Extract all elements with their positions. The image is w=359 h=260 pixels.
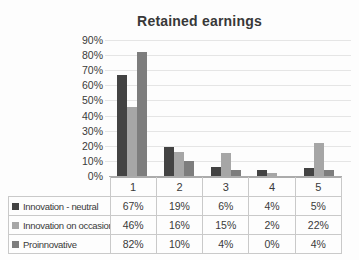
table-row: Innovation on occasion46%16%15%2%22% [9,216,342,235]
plot-area [109,40,342,176]
category-label: 2 [156,178,202,197]
value-cell: 22% [295,216,341,235]
category-label: 3 [203,178,249,197]
value-cell: 10% [156,235,202,254]
series-label-cell: Proinnovative [9,235,111,254]
value-cell: 19% [156,197,202,216]
category-label: 4 [249,178,295,197]
y-tick-label: 30% [0,125,103,137]
bar-innovation-on-occasion-cat3 [221,153,231,176]
category-axis-row: 12345 [9,178,342,197]
legend-marker-icon [12,203,19,210]
y-tick-label: 70% [0,64,103,76]
value-cell: 82% [110,235,156,254]
bar-proinnovative-cat2 [184,161,194,176]
category-label: 5 [295,178,341,197]
table-row: Innovation - neutral67%19%6%4%5% [9,197,342,216]
bar-innovation-on-occasion-cat1 [127,107,137,177]
value-cell: 15% [203,216,249,235]
y-tick-label: 20% [0,140,103,152]
bar-innovation-on-occasion-cat5 [314,143,324,176]
category-label: 1 [110,178,156,197]
bar-innovation-neutral-cat5 [304,168,314,176]
y-tick-label: 60% [0,79,103,91]
y-tick-label: 80% [0,49,103,61]
value-cell: 0% [249,235,295,254]
chart: Retained earnings 90%80%70%60%50%40%30%2… [0,0,359,260]
legend-marker-icon [12,241,19,248]
chart-title: Retained earnings [50,13,349,29]
bar-proinnovative-cat1 [137,52,147,176]
series-label-cell: Innovation on occasion [9,216,111,235]
data-table-legend: 12345 Innovation - neutral67%19%6%4%5%In… [8,177,342,254]
value-cell: 4% [203,235,249,254]
y-tick-label: 50% [0,94,103,106]
series-rows: Innovation - neutral67%19%6%4%5%Innovati… [9,197,342,254]
legend-marker-icon [12,222,19,229]
y-tick-label: 90% [0,34,103,46]
value-cell: 4% [249,197,295,216]
value-cell: 67% [110,197,156,216]
value-cell: 4% [295,235,341,254]
y-axis-tick-labels: 90%80%70%60%50%40%30%20%10%0% [0,40,103,176]
table-corner-cell [9,178,111,197]
bar-innovation-neutral-cat1 [117,75,127,176]
bar-innovation-on-occasion-cat2 [174,152,184,176]
y-tick-label: 40% [0,110,103,122]
bar-innovation-neutral-cat2 [164,147,174,176]
value-cell: 6% [203,197,249,216]
table-row: Proinnovative82%10%4%0%4% [9,235,342,254]
value-cell: 5% [295,197,341,216]
y-tick-label: 10% [0,155,103,167]
bar-innovation-neutral-cat3 [211,167,221,176]
value-cell: 16% [156,216,202,235]
value-cell: 46% [110,216,156,235]
series-label-cell: Innovation - neutral [9,197,111,216]
value-cell: 2% [249,216,295,235]
